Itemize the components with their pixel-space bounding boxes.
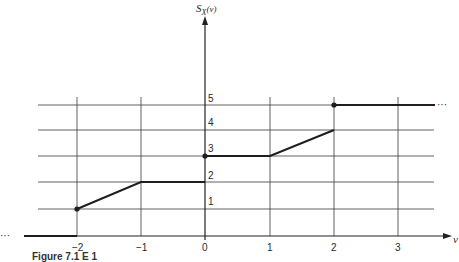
y-tick-labels: 1 2 3 4 5 bbox=[208, 93, 214, 207]
y-axis-arrow-icon bbox=[202, 16, 208, 25]
x-tick-label: 2 bbox=[331, 242, 337, 253]
y-axis-title: SX(ν) bbox=[196, 2, 216, 17]
y-tick-label: 4 bbox=[208, 117, 214, 128]
x-axis bbox=[24, 233, 452, 239]
y-tick-label: 5 bbox=[208, 93, 214, 104]
x-tick-label: −1 bbox=[136, 242, 148, 253]
data-dot bbox=[202, 153, 207, 158]
x-tick-labels: −2 −1 0 1 2 3 bbox=[72, 242, 401, 253]
x-axis-arrow-icon bbox=[443, 233, 452, 239]
vertical-gridlines bbox=[77, 97, 398, 236]
x-tick-label: 1 bbox=[267, 242, 273, 253]
data-dot bbox=[74, 206, 79, 211]
ellipsis-left: ··· bbox=[0, 230, 10, 241]
series-sx bbox=[24, 102, 435, 236]
x-tick-label: 3 bbox=[395, 242, 401, 253]
y-tick-label: 1 bbox=[208, 196, 214, 207]
y-tick-label: 2 bbox=[208, 170, 214, 181]
figure-caption: Figure 7.1 E 1 bbox=[32, 251, 97, 262]
ellipsis-right: ··· bbox=[437, 99, 447, 110]
x-tick-label: 0 bbox=[202, 242, 208, 253]
y-tick-label: 3 bbox=[208, 143, 214, 154]
data-dot bbox=[331, 102, 336, 107]
x-axis-title: ν bbox=[453, 233, 458, 245]
